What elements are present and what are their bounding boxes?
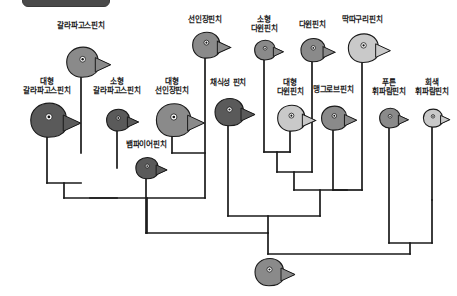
- bird-head-t11: [322, 106, 357, 130]
- tree-canvas: [0, 0, 457, 296]
- bird-head-t10: [301, 39, 335, 62]
- taxon-label-t2: 갈라파고스핀치: [42, 22, 120, 31]
- taxon-label-t14: 회색 휘파람핀치: [405, 79, 457, 96]
- bird-head-t12: [348, 34, 390, 63]
- bird-head-t3: [107, 109, 139, 131]
- taxon-label-t11: 맹그로브핀치: [301, 86, 365, 95]
- bird-head-t9: [278, 105, 316, 131]
- bird-head-t2: [67, 47, 111, 77]
- bird-head-t4: [136, 157, 167, 178]
- taxon-label-t5: 대형 선인장핀치: [143, 78, 201, 95]
- cladogram-figure: 대형 갈라파고스핀치갈라파고스핀치소형 갈라파고스핀치뱀파이어핀치대형 선인장핀…: [0, 0, 457, 296]
- taxon-label-t6: 선인장핀치: [178, 16, 232, 25]
- bird-head-t1: [31, 103, 81, 137]
- taxon-label-t4: 뱀파이어핀치: [113, 141, 179, 150]
- bird-head-ancestor: [255, 259, 295, 286]
- taxon-label-t7: 채식성 핀치: [199, 79, 257, 88]
- bird-head-t5: [156, 104, 204, 137]
- bird-head-t8: [255, 40, 284, 60]
- bird-head-t13: [380, 108, 409, 128]
- taxon-label-t12: 딱따구리핀치: [330, 16, 394, 25]
- bird-head-t6: [193, 32, 231, 58]
- taxon-label-t1: 대형 갈라파고스핀치: [8, 78, 86, 95]
- bird-head-t7: [215, 99, 255, 126]
- taxon-label-t8: 소형 다윈핀치: [238, 16, 290, 33]
- bird-head-t14: [423, 109, 449, 127]
- bird-head-icons: [31, 32, 450, 286]
